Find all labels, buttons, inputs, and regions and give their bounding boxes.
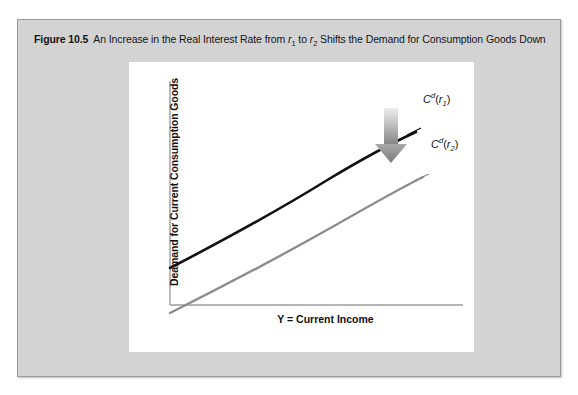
caption-text-part1: An Increase in the Real Interest Rate fr…	[93, 33, 288, 45]
cd-r1-close-paren: )	[447, 93, 451, 105]
curve-label-cd-r2: Cd(r2)	[431, 136, 458, 153]
shift-down-arrow-icon	[375, 108, 407, 163]
y-axis-label: Deamand for Current Consumption Goods	[168, 86, 180, 286]
caption-text-mid: to	[296, 33, 310, 45]
figure-caption: Figure 10.5An Increase in the Real Inter…	[34, 33, 550, 50]
cd-r1-base: C	[423, 93, 431, 105]
figure-panel: Figure 10.5An Increase in the Real Inter…	[17, 19, 561, 377]
figure-number: Figure 10.5	[34, 33, 88, 45]
figure-page: Figure 10.5An Increase in the Real Inter…	[0, 0, 578, 395]
leader-line-cd-r2	[414, 174, 429, 181]
cd-r2-base: C	[431, 138, 439, 150]
cd-r2-close-paren: )	[455, 138, 459, 150]
caption-text-part2: Shifts the Demand for Consumption Goods …	[317, 33, 545, 45]
curve-label-cd-r1: Cd(r1)	[423, 91, 450, 108]
plot-card: Deamand for Current Consumption Goods Y …	[129, 62, 474, 352]
x-axis-label: Y = Current Income	[129, 313, 474, 325]
